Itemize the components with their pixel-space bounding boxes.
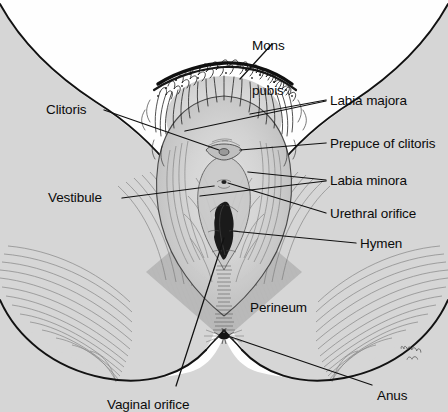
anatomical-figure: Mons pubis Clitoris Labia majora Prepuce… bbox=[0, 0, 448, 412]
label-clitoris: Clitoris bbox=[46, 102, 86, 117]
label-urethral-orifice: Urethral orifice bbox=[330, 206, 416, 221]
label-mons-pubis-line2: pubis bbox=[252, 83, 285, 98]
label-prepuce-of-clitoris: Prepuce of clitoris bbox=[330, 136, 435, 151]
label-perineum: Perineum bbox=[250, 300, 307, 315]
label-anus: Anus bbox=[377, 388, 407, 403]
label-labia-majora: Labia majora bbox=[330, 93, 407, 108]
label-vestibule: Vestibule bbox=[48, 190, 102, 205]
label-mons-pubis-line1: Mons bbox=[252, 38, 285, 53]
label-vaginal-orifice: Vaginal orifice bbox=[107, 397, 189, 412]
label-labia-minora: Labia minora bbox=[330, 173, 407, 188]
urethral-orifice-mark bbox=[221, 180, 226, 184]
label-hymen: Hymen bbox=[360, 236, 402, 251]
label-mons-pubis: Mons pubis bbox=[252, 8, 285, 128]
